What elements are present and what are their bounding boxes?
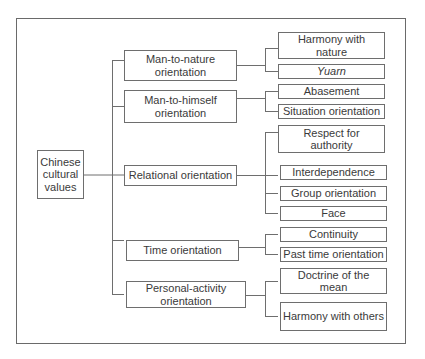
value-interdependence: Interdependence [280,165,387,180]
root-node-chinese-cultural-values: Chinese cultural values [37,150,84,199]
category-time: Time orientation [126,240,239,261]
value-label: Harmony with nature [281,33,382,58]
value-harmony-with-nature: Harmony with nature [278,32,385,59]
value-continuity: Continuity [280,227,387,242]
value-yuarn: Yuarn [278,64,385,79]
category-personal-activity: Personal-activity orientation [126,281,246,308]
value-situation-orientation: Situation orientation [278,104,385,119]
value-face: Face [280,206,387,221]
value-harmony-with-others: Harmony with others [280,302,387,331]
category-label: Man-to-nature orientation [127,53,234,78]
value-respect-for-authority: Respect for authority [278,125,385,153]
category-label: Personal-activity orientation [129,282,243,307]
value-label: Group orientation [291,187,376,200]
value-label: Yuarn [317,65,346,78]
value-abasement: Abasement [278,84,385,99]
value-label: Situation orientation [283,105,380,118]
value-label: Respect for authority [281,127,382,152]
value-group-orientation: Group orientation [280,186,387,201]
value-label: Abasement [304,85,360,98]
value-label: Past time orientation [283,248,383,261]
category-man-to-himself: Man-to-himself orientation [124,90,237,123]
root-node-label: Chinese cultural values [40,156,81,194]
value-label: Doctrine of the mean [283,269,384,294]
value-label: Harmony with others [283,310,384,323]
value-label: Continuity [309,228,358,241]
value-doctrine-of-the-mean: Doctrine of the mean [280,268,387,294]
category-label: Relational orientation [129,169,232,182]
value-past-time-orientation: Past time orientation [280,247,387,262]
category-label: Time orientation [143,244,221,257]
category-man-to-nature: Man-to-nature orientation [124,50,237,81]
value-label: Interdependence [292,166,375,179]
category-label: Man-to-himself orientation [127,94,234,119]
category-relational: Relational orientation [124,165,237,186]
value-label: Face [321,207,345,220]
